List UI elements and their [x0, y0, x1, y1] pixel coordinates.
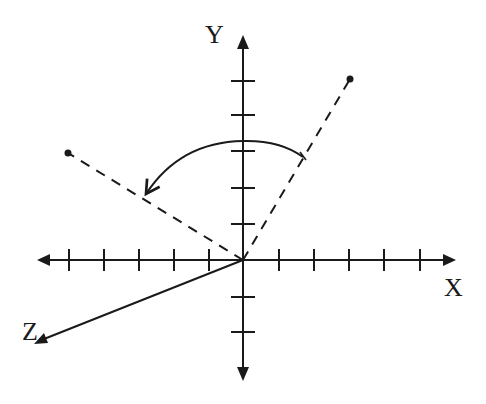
rotated-vector-endpoint [65, 150, 72, 157]
rotation-arc [146, 141, 306, 194]
z-axis-label: Z [22, 317, 38, 346]
y-axis-down-arrow-icon [237, 367, 249, 381]
x-axis-right-arrow-icon [443, 254, 456, 266]
rotated-vector [65, 150, 244, 261]
initial-vector-endpoint [347, 76, 354, 83]
y-axis-label: Y [205, 20, 224, 49]
x-axis-label: X [444, 273, 463, 302]
coordinate-diagram: Y X Z [0, 0, 486, 404]
y-axis-up-arrow-icon [237, 35, 249, 49]
initial-vector [243, 76, 354, 261]
x-axis-left-arrow-icon [37, 254, 50, 266]
z-axis [34, 260, 243, 344]
y-axis [231, 35, 255, 381]
